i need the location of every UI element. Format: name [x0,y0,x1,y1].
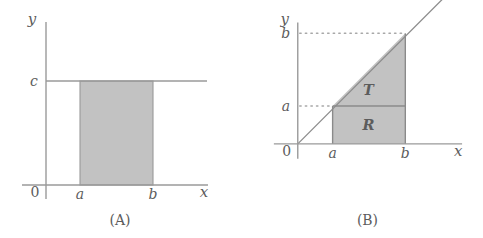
panel-a: y x 0 c a b (A) [0,0,241,238]
panel-b: y x 0 b a a b T R (B) [241,0,482,238]
panel-b-origin-label: 0 [282,143,291,159]
panel-a-x-tick-a: a [76,186,84,202]
panel-b-plot: y x 0 b a a b T R (B) [241,0,482,238]
figure-two-panel-diagram: y x 0 c a b (A) [0,0,483,238]
panel-b-triangle-label: T [363,81,375,98]
panel-b-x-tick-b: b [401,145,410,161]
panel-a-x-axis-label: x [200,183,209,201]
panel-a-x-tick-b: b [149,186,158,202]
panel-a-y-tick-c: c [30,73,38,89]
panel-a-caption: (A) [109,212,130,228]
panel-b-y-tick-a: a [282,98,290,114]
panel-b-caption: (B) [357,212,378,228]
panel-b-rectangle-label: R [361,116,374,133]
panel-a-shaded-rectangle [80,81,153,185]
panel-a-y-axis-label: y [27,10,37,28]
panel-b-x-tick-a: a [328,145,336,161]
panel-b-y-tick-b: b [281,25,290,41]
panel-a-plot: y x 0 c a b (A) [0,0,241,238]
panel-a-origin-label: 0 [31,184,40,200]
panel-b-x-axis-label: x [454,142,463,160]
